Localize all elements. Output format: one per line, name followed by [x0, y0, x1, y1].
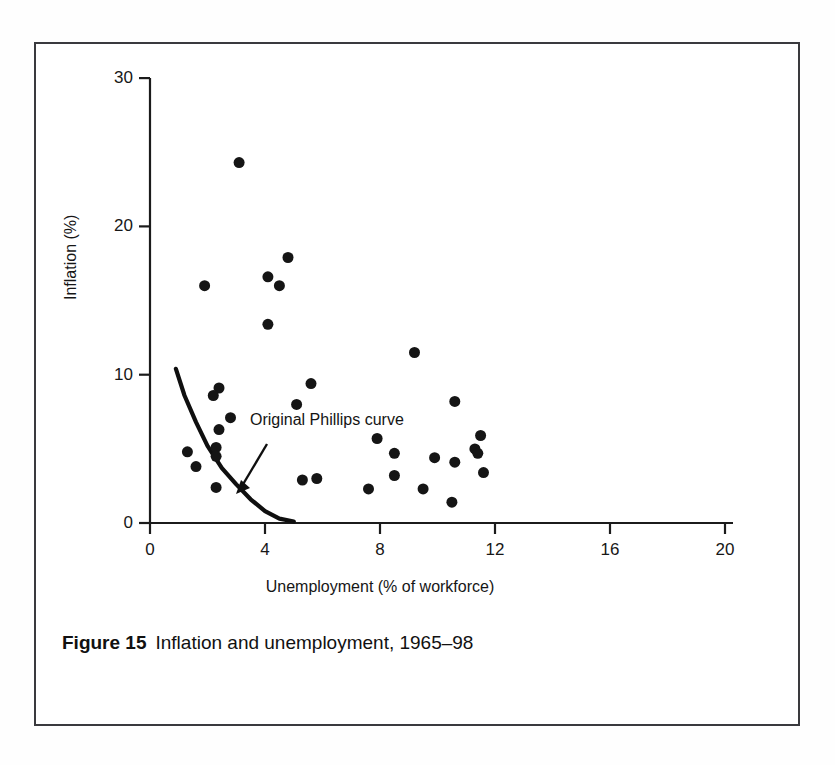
y-tick-label: 10	[114, 365, 133, 385]
annotation-label-original-phillips-curve: Original Phillips curve	[250, 411, 404, 429]
y-tick-label: 0	[124, 513, 133, 533]
figure-caption: Figure 15Inflation and unemployment, 196…	[62, 632, 473, 654]
x-axis-title: Unemployment (% of workforce)	[0, 578, 760, 596]
x-tick-label: 20	[716, 540, 735, 560]
x-tick-label: 16	[601, 540, 620, 560]
x-tick-label: 0	[145, 540, 154, 560]
x-tick-label: 8	[375, 540, 384, 560]
figure-container: 0481216200102030 Inflation (%) Unemploym…	[0, 0, 835, 765]
figure-caption-text: Inflation and unemployment, 1965–98	[155, 632, 473, 653]
x-tick-label: 12	[486, 540, 505, 560]
x-tick-label: 4	[260, 540, 269, 560]
figure-caption-number: Figure 15	[62, 632, 146, 653]
figure-frame-border	[34, 42, 800, 726]
y-tick-label: 30	[114, 68, 133, 88]
y-tick-label: 20	[114, 216, 133, 236]
y-axis-title: Inflation (%)	[62, 215, 80, 300]
